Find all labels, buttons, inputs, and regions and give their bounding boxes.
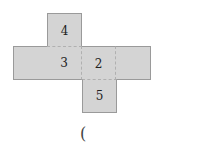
net-square-5: 5 bbox=[82, 79, 117, 113]
face-label: 2 bbox=[95, 57, 103, 71]
face-label: 3 bbox=[60, 56, 68, 70]
answer-paren: ( bbox=[80, 124, 86, 143]
net-square-2: 2 bbox=[82, 46, 116, 80]
face-label: 4 bbox=[61, 24, 69, 38]
net-square-3: 3 bbox=[47, 46, 82, 80]
face-label: 5 bbox=[96, 89, 104, 103]
net-square-left bbox=[13, 46, 48, 80]
net-square-right bbox=[116, 46, 151, 80]
net-square-4: 4 bbox=[47, 13, 82, 47]
